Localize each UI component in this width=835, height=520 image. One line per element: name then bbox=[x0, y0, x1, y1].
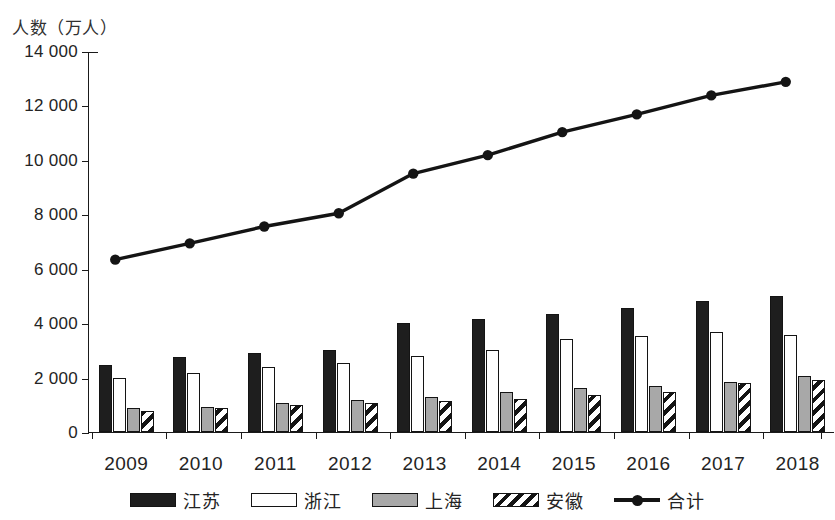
legend-label: 江苏 bbox=[183, 487, 221, 513]
bar bbox=[770, 296, 783, 432]
legend-swatch-icon bbox=[130, 493, 176, 507]
bar bbox=[127, 408, 140, 432]
bar bbox=[411, 356, 424, 432]
bar bbox=[262, 367, 275, 432]
bar bbox=[141, 411, 154, 432]
bar bbox=[560, 339, 573, 432]
bar bbox=[696, 301, 709, 432]
bar bbox=[486, 350, 499, 432]
legend-label: 浙江 bbox=[304, 487, 342, 513]
bar-group bbox=[546, 52, 601, 432]
legend-item[interactable]: 浙江 bbox=[251, 487, 342, 513]
legend-swatch-icon bbox=[372, 493, 418, 507]
bar bbox=[546, 314, 559, 432]
bar bbox=[588, 395, 601, 432]
legend-label: 上海 bbox=[425, 487, 463, 513]
legend-item[interactable]: 上海 bbox=[372, 487, 463, 513]
x-tick-label: 2011 bbox=[254, 453, 297, 475]
bar-group bbox=[323, 52, 378, 432]
bar bbox=[215, 408, 228, 432]
bar-group bbox=[397, 52, 452, 432]
x-tick-label: 2017 bbox=[701, 453, 745, 475]
bar bbox=[649, 386, 662, 432]
bar-group bbox=[621, 52, 676, 432]
bar-group bbox=[472, 52, 527, 432]
x-tick-mark bbox=[539, 432, 540, 439]
bar bbox=[472, 319, 485, 432]
bar bbox=[201, 407, 214, 432]
legend-swatch-icon bbox=[614, 493, 660, 507]
bar bbox=[173, 357, 186, 432]
y-tick-mark bbox=[82, 379, 89, 380]
bar bbox=[276, 403, 289, 432]
bar bbox=[663, 392, 676, 432]
x-tick-mark bbox=[390, 432, 391, 439]
x-tick-label: 2015 bbox=[552, 453, 596, 475]
legend-item[interactable]: 江苏 bbox=[130, 487, 221, 513]
y-tick-label: 0 bbox=[68, 423, 78, 443]
bar bbox=[635, 336, 648, 432]
x-tick-mark bbox=[763, 432, 764, 439]
x-tick-label: 2012 bbox=[328, 453, 372, 475]
plot-area: 02 0004 0006 0008 00010 00012 00014 000 … bbox=[88, 52, 834, 433]
legend-swatch-icon bbox=[493, 493, 539, 507]
bar bbox=[351, 400, 364, 432]
x-tick-label: 2016 bbox=[626, 453, 670, 475]
bar bbox=[187, 373, 200, 432]
bar bbox=[439, 401, 452, 432]
bar bbox=[812, 380, 825, 432]
x-tick-mark bbox=[614, 432, 615, 439]
bar bbox=[337, 363, 350, 432]
x-tick-mark bbox=[316, 432, 317, 439]
legend-item[interactable]: 安徽 bbox=[493, 487, 584, 513]
bar bbox=[514, 399, 527, 432]
chart-legend: 江苏浙江上海安徽合计 bbox=[0, 487, 835, 513]
bar bbox=[738, 383, 751, 432]
bar bbox=[724, 382, 737, 432]
chart-figure: 人数（万人） 02 0004 0006 0008 00010 00012 000… bbox=[0, 0, 835, 520]
x-tick-label: 2018 bbox=[776, 453, 820, 475]
bar bbox=[397, 323, 410, 432]
bar bbox=[290, 405, 303, 432]
y-axis-title: 人数（万人） bbox=[12, 14, 117, 39]
bar-group bbox=[696, 52, 751, 432]
bar bbox=[710, 332, 723, 432]
y-tick-label: 4 000 bbox=[34, 314, 78, 334]
x-tick-mark bbox=[166, 432, 167, 439]
bar bbox=[365, 403, 378, 432]
y-tick-mark bbox=[82, 433, 89, 434]
bar bbox=[621, 308, 634, 432]
x-tick-mark bbox=[821, 432, 822, 439]
y-tick-label: 8 000 bbox=[34, 205, 78, 225]
x-tick-mark bbox=[465, 432, 466, 439]
x-tick-label: 2014 bbox=[477, 453, 521, 475]
y-tick-label: 6 000 bbox=[34, 260, 78, 280]
legend-label: 合计 bbox=[667, 487, 705, 513]
bar bbox=[784, 335, 797, 432]
bar-group bbox=[99, 52, 154, 432]
x-tick-label: 2009 bbox=[104, 453, 148, 475]
bar-group bbox=[770, 52, 825, 432]
y-tick-mark bbox=[82, 324, 89, 325]
y-tick-label: 14 000 bbox=[24, 42, 78, 62]
bar bbox=[323, 350, 336, 432]
bar bbox=[99, 365, 112, 432]
bar-group bbox=[173, 52, 228, 432]
x-tick-mark bbox=[689, 432, 690, 439]
y-tick-mark bbox=[82, 215, 89, 216]
x-tick-label: 2013 bbox=[403, 453, 447, 475]
bar bbox=[798, 376, 811, 432]
y-axis-top-cap bbox=[89, 52, 98, 53]
x-tick-mark bbox=[241, 432, 242, 439]
y-tick-mark bbox=[82, 106, 89, 107]
y-tick-mark bbox=[82, 270, 89, 271]
y-tick-mark bbox=[82, 52, 89, 53]
y-tick-label: 10 000 bbox=[24, 151, 78, 171]
bar bbox=[574, 388, 587, 432]
bar bbox=[113, 378, 126, 432]
x-tick-label: 2010 bbox=[179, 453, 223, 475]
bar bbox=[500, 392, 513, 432]
legend-item[interactable]: 合计 bbox=[614, 487, 705, 513]
y-tick-mark bbox=[82, 161, 89, 162]
x-tick-mark bbox=[92, 432, 93, 439]
